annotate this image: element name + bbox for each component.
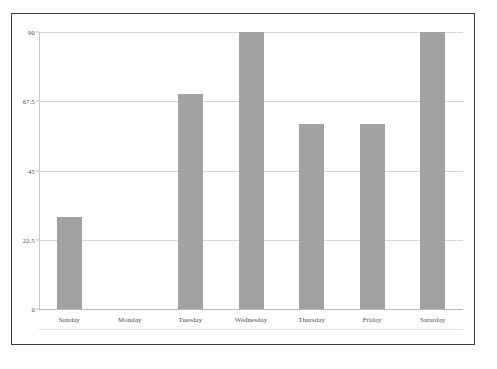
x-axis-tick-label: Thursday xyxy=(298,316,325,323)
chart-frame: 022.54567.590 SundayMondayTuesdayWednesd… xyxy=(11,13,475,345)
x-axis-tick-label: Friday xyxy=(363,316,382,323)
x-axis-label-rule xyxy=(39,329,463,330)
y-axis-tick-label: 90 xyxy=(28,29,35,36)
bar-series xyxy=(39,32,463,309)
plot-area: 022.54567.590 SundayMondayTuesdayWednesd… xyxy=(39,32,463,309)
x-axis-tick-label: Monday xyxy=(118,316,142,323)
x-axis-tick-label: Wednesday xyxy=(235,316,268,323)
bar[interactable] xyxy=(57,217,82,309)
bar[interactable] xyxy=(178,94,203,309)
x-axis-tick-label: Sunday xyxy=(59,316,80,323)
bar[interactable] xyxy=(360,124,385,309)
bar[interactable] xyxy=(420,32,445,309)
y-axis-tick-label: 67.5 xyxy=(23,98,35,105)
y-axis-tick-label: 45 xyxy=(28,167,35,174)
y-axis-tick-label: 0 xyxy=(32,306,35,313)
bar[interactable] xyxy=(299,124,324,309)
bar[interactable] xyxy=(239,32,264,309)
x-axis-tick-label: Tuesday xyxy=(179,316,203,323)
x-axis-tick-labels: SundayMondayTuesdayWednesdayThursdayFrid… xyxy=(39,309,463,331)
x-axis-tick-label: Saturday xyxy=(420,316,445,323)
y-axis-tick-label: 22.5 xyxy=(23,236,35,243)
